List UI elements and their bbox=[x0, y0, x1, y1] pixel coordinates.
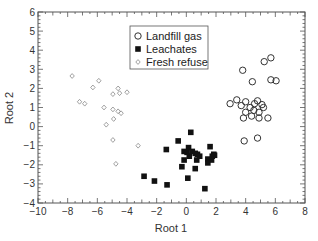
data-point bbox=[202, 186, 208, 192]
data-point bbox=[117, 91, 121, 96]
data-point bbox=[185, 175, 191, 181]
data-point bbox=[164, 182, 170, 188]
y-tick-label: −1 bbox=[24, 140, 36, 151]
data-point bbox=[240, 67, 246, 73]
data-point bbox=[238, 102, 244, 108]
data-point bbox=[249, 79, 255, 85]
data-point bbox=[102, 105, 106, 110]
data-point bbox=[104, 122, 108, 127]
data-point bbox=[77, 99, 81, 104]
x-tick-label: 2 bbox=[213, 206, 219, 217]
x-tick-label: −2 bbox=[151, 206, 163, 217]
y-tick-label: 2 bbox=[29, 83, 35, 94]
data-point bbox=[164, 147, 170, 153]
x-tick-label: −6 bbox=[92, 206, 104, 217]
x-tick-label: 0 bbox=[184, 206, 190, 217]
data-point bbox=[240, 115, 246, 121]
data-point bbox=[116, 109, 120, 114]
data-point bbox=[152, 178, 158, 184]
data-point bbox=[111, 107, 115, 112]
data-point bbox=[248, 113, 254, 119]
x-tick-label: 4 bbox=[243, 206, 249, 217]
data-point bbox=[136, 143, 140, 148]
data-point bbox=[212, 152, 218, 158]
data-point bbox=[207, 144, 213, 150]
legend: Landfill gasLeachatesFresh refuse bbox=[130, 26, 208, 69]
data-point bbox=[227, 100, 233, 106]
data-point bbox=[179, 164, 185, 170]
legend-label: Fresh refuse bbox=[146, 56, 208, 68]
legend-label: Leachates bbox=[146, 43, 197, 55]
y-tick-label: 6 bbox=[29, 7, 35, 18]
x-tick-label: 6 bbox=[273, 206, 279, 217]
series-landfill-gas bbox=[227, 55, 279, 144]
x-tick-label: −8 bbox=[62, 206, 74, 217]
y-tick-label: 5 bbox=[29, 26, 35, 37]
data-point bbox=[175, 138, 181, 144]
data-point bbox=[268, 55, 274, 61]
y-tick-label: 4 bbox=[29, 45, 35, 56]
data-point bbox=[114, 161, 118, 166]
data-point bbox=[83, 101, 87, 106]
data-point bbox=[261, 58, 267, 64]
data-point bbox=[111, 92, 115, 97]
data-point bbox=[254, 135, 260, 141]
scatter-chart: −10−8−6−4−202468−4−3−2−10123456 Landfill… bbox=[0, 0, 318, 241]
data-point bbox=[234, 97, 240, 103]
data-point bbox=[97, 78, 101, 83]
legend-label: Landfill gas bbox=[146, 30, 202, 42]
y-tick-label: −4 bbox=[24, 198, 36, 209]
y-tick-label: 3 bbox=[29, 64, 35, 75]
data-point bbox=[111, 138, 115, 143]
y-tick-label: −2 bbox=[24, 159, 36, 170]
x-tick-label: 8 bbox=[302, 206, 308, 217]
y-tick-label: −3 bbox=[24, 178, 36, 189]
y-tick-label: 0 bbox=[29, 121, 35, 132]
x-tick-label: −4 bbox=[121, 206, 133, 217]
legend-marker-icon bbox=[135, 46, 141, 52]
data-points bbox=[70, 55, 279, 192]
y-axis-title: Root 2 bbox=[3, 92, 15, 124]
series-leachates bbox=[141, 130, 217, 192]
data-point bbox=[181, 157, 187, 163]
data-point bbox=[265, 115, 271, 121]
data-point bbox=[119, 111, 123, 116]
data-point bbox=[188, 130, 194, 136]
data-point bbox=[116, 86, 120, 91]
x-axis-title: Root 1 bbox=[155, 222, 187, 234]
data-point bbox=[197, 153, 203, 159]
data-point bbox=[205, 160, 211, 166]
data-point bbox=[184, 150, 190, 156]
y-tick-label: 1 bbox=[29, 102, 35, 113]
data-point bbox=[70, 74, 74, 79]
data-point bbox=[192, 166, 198, 172]
data-point bbox=[111, 117, 115, 122]
data-point bbox=[91, 85, 95, 90]
data-point bbox=[141, 173, 147, 179]
data-point bbox=[125, 90, 129, 95]
series-fresh-refuse bbox=[70, 74, 140, 167]
data-point bbox=[241, 138, 247, 144]
